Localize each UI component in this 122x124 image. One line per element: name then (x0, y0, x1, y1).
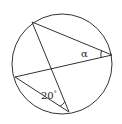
circle-diagram: α 20° (0, 0, 122, 124)
geometry-figure: α 20° (0, 0, 122, 124)
angle-arc-20 (60, 102, 65, 106)
angle-20-label: 20° (41, 89, 57, 101)
chord-c-b (15, 55, 112, 77)
degree-mark: ° (54, 89, 57, 96)
circle (12, 14, 112, 114)
angle-20-value: 20 (41, 90, 54, 101)
angle-arc-alpha (101, 51, 102, 58)
alpha-label: α (81, 48, 88, 59)
